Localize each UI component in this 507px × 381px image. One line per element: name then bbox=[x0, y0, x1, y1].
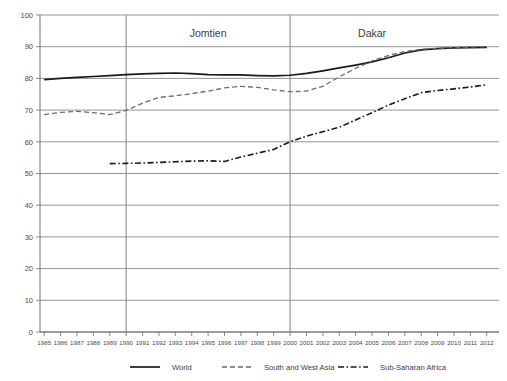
y-axis-tick-labels: 0102030405060708090100 bbox=[20, 11, 33, 337]
x-tick-label: 1989 bbox=[103, 339, 117, 346]
x-tick-label: 2012 bbox=[480, 339, 494, 346]
series-line-sub-saharan-africa bbox=[110, 85, 487, 164]
data-series-group bbox=[44, 47, 487, 164]
chart-container: 0102030405060708090100 19851986198719881… bbox=[0, 0, 507, 381]
series-line-world bbox=[44, 47, 487, 79]
x-tick-label: 2009 bbox=[431, 339, 445, 346]
legend-label-south-and-west-asia: South and West Asia bbox=[264, 363, 335, 372]
x-tick-label: 2006 bbox=[382, 339, 396, 346]
x-tick-label: 1997 bbox=[234, 339, 248, 346]
x-tick-label: 2007 bbox=[398, 339, 412, 346]
event-marker-labels: JomtienDakar bbox=[190, 27, 387, 39]
marker-label-dakar: Dakar bbox=[358, 27, 387, 39]
y-tick-label: 0 bbox=[29, 328, 33, 337]
gridlines-group bbox=[36, 15, 499, 332]
x-axis-tick-labels: 1985198619871988198919901991199219931994… bbox=[37, 339, 494, 346]
x-tick-label: 2002 bbox=[316, 339, 330, 346]
x-tick-label: 2005 bbox=[365, 339, 379, 346]
y-tick-label: 30 bbox=[25, 233, 33, 242]
x-tick-label: 2011 bbox=[464, 339, 478, 346]
x-tick-label: 1990 bbox=[119, 339, 133, 346]
x-tick-label: 2000 bbox=[283, 339, 297, 346]
x-tick-label: 1987 bbox=[70, 339, 84, 346]
series-line-south-and-west-asia bbox=[44, 47, 487, 115]
y-tick-label: 10 bbox=[25, 296, 33, 305]
x-tick-label: 1993 bbox=[168, 339, 182, 346]
y-tick-label: 60 bbox=[25, 138, 33, 147]
x-tick-label: 1991 bbox=[136, 339, 150, 346]
y-tick-label: 50 bbox=[25, 169, 33, 178]
x-tick-label: 1986 bbox=[54, 339, 68, 346]
legend-label-sub-saharan-africa: Sub-Saharan Africa bbox=[380, 363, 447, 372]
marker-label-jomtien: Jomtien bbox=[190, 27, 227, 39]
y-tick-label: 90 bbox=[25, 42, 33, 51]
x-tick-label: 2003 bbox=[332, 339, 346, 346]
x-tick-label: 1992 bbox=[152, 339, 166, 346]
x-tick-label: 1988 bbox=[86, 339, 100, 346]
x-tick-label: 1996 bbox=[218, 339, 232, 346]
x-tick-label: 1995 bbox=[201, 339, 215, 346]
x-tick-label: 1999 bbox=[267, 339, 281, 346]
x-tick-label: 2004 bbox=[349, 339, 363, 346]
legend-label-world: World bbox=[172, 363, 192, 372]
x-tick-label: 2008 bbox=[414, 339, 428, 346]
x-tick-label: 1998 bbox=[250, 339, 264, 346]
x-tick-label: 1994 bbox=[185, 339, 199, 346]
y-tick-label: 100 bbox=[20, 11, 33, 20]
y-tick-label: 40 bbox=[25, 201, 33, 210]
x-tick-label: 2001 bbox=[300, 339, 314, 346]
y-tick-label: 70 bbox=[25, 106, 33, 115]
y-tick-label: 80 bbox=[25, 74, 33, 83]
x-tick-label: 1985 bbox=[37, 339, 51, 346]
y-tick-label: 20 bbox=[25, 264, 33, 273]
line-chart: 0102030405060708090100 19851986198719881… bbox=[0, 0, 507, 381]
legend: WorldSouth and West AsiaSub-Saharan Afri… bbox=[130, 363, 447, 372]
x-axis-tick-marks bbox=[44, 332, 487, 336]
x-tick-label: 2010 bbox=[447, 339, 461, 346]
